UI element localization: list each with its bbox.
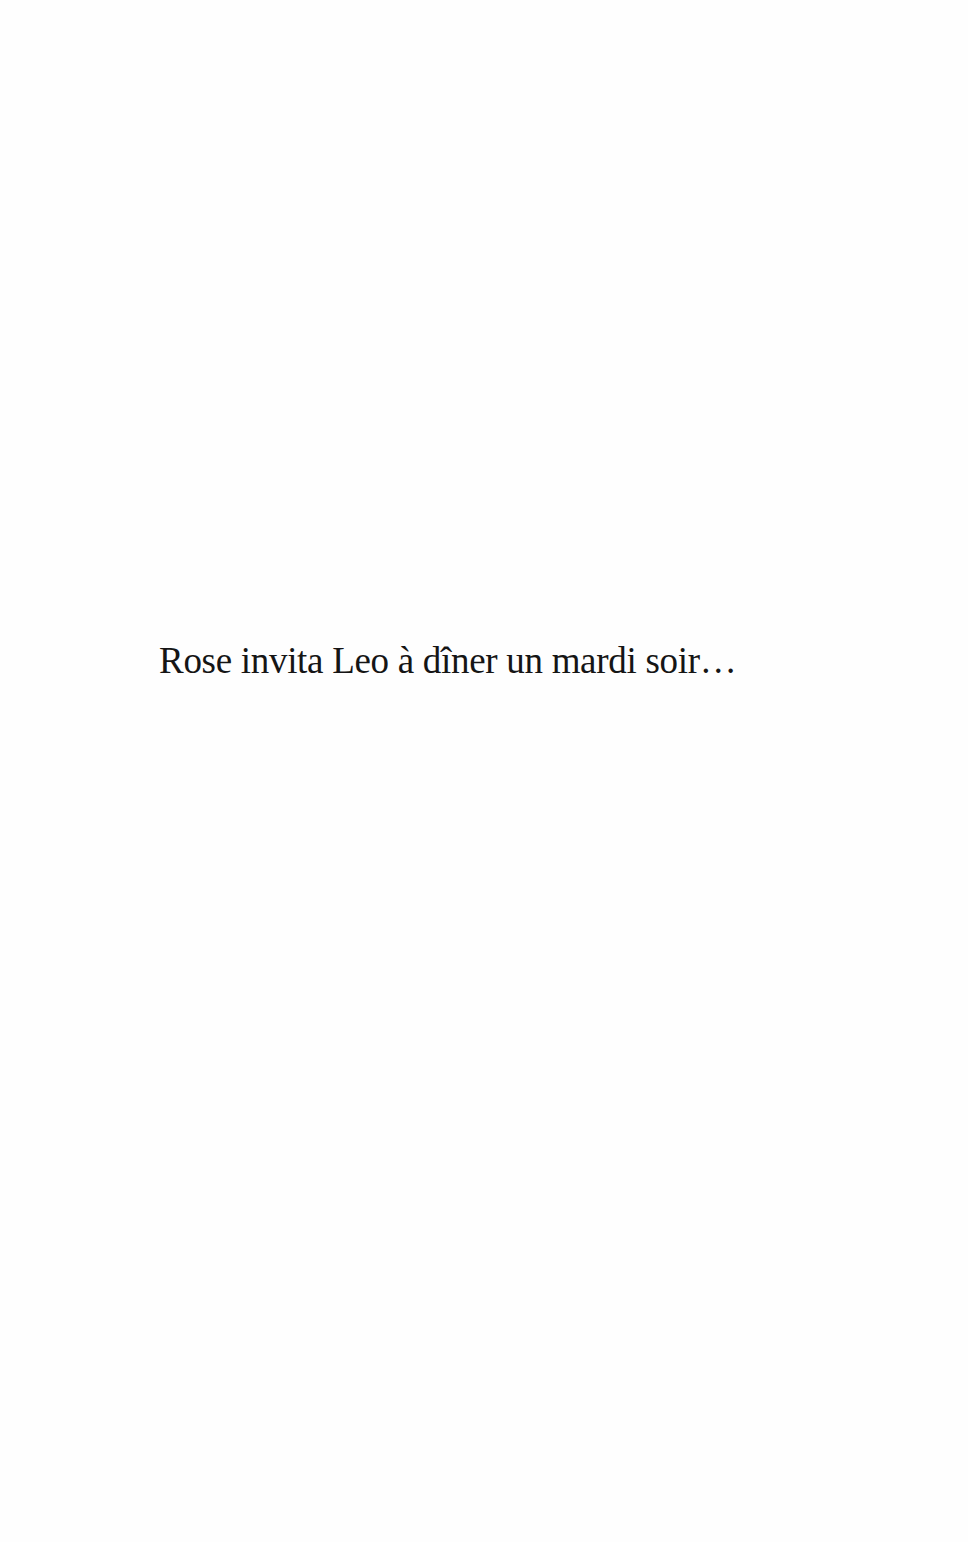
- epigraph-text: Rose invita Leo à dîner un mardi soir…: [159, 636, 736, 686]
- book-page: Rose invita Leo à dîner un mardi soir…: [0, 0, 968, 1542]
